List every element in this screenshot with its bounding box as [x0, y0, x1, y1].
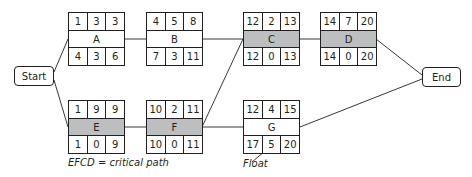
duration: 9 [88, 101, 107, 118]
node-f-bottom-row: 10 0 11 [147, 136, 202, 153]
activity-node-b: 4 5 8 B 7 3 11 [146, 12, 203, 66]
edge-g-end [300, 79, 422, 127]
start-label: Start [22, 71, 46, 82]
earliest-finish: 8 [184, 13, 202, 30]
latest-start: 10 [147, 136, 166, 153]
node-c-bottom-row: 12 0 13 [244, 48, 299, 65]
activity-node-a: 1 3 3 A 4 3 6 [68, 12, 125, 66]
earliest-start: 4 [147, 13, 166, 30]
earliest-start: 12 [244, 101, 263, 118]
activity-label: G [244, 118, 299, 136]
critical-path-caption: EFCD = critical path [68, 157, 169, 168]
earliest-start: 1 [69, 101, 88, 118]
start-node: Start [14, 66, 54, 86]
activity-label: A [69, 30, 124, 48]
earliest-start: 12 [244, 13, 263, 30]
node-d-top-row: 14 7 20 [321, 13, 376, 30]
latest-finish: 20 [281, 136, 299, 153]
node-d-bottom-row: 14 0 20 [321, 48, 376, 65]
latest-start: 17 [244, 136, 263, 153]
float: 0 [166, 136, 185, 153]
activity-node-f: 10 2 11 F 10 0 11 [146, 100, 203, 154]
node-g-top-row: 12 4 15 [244, 101, 299, 118]
edge-f-c [202, 39, 243, 127]
latest-finish: 6 [106, 48, 124, 65]
earliest-start: 10 [147, 101, 166, 118]
earliest-finish: 3 [106, 13, 124, 30]
end-node: End [422, 67, 461, 87]
node-b-bottom-row: 7 3 11 [147, 48, 202, 65]
node-c-top-row: 12 2 13 [244, 13, 299, 30]
node-g-bottom-row: 17 5 20 [244, 136, 299, 153]
activity-label: D [321, 30, 376, 48]
latest-start: 1 [69, 136, 88, 153]
earliest-finish: 9 [106, 101, 124, 118]
earliest-finish: 13 [281, 13, 299, 30]
activity-label: C [244, 30, 299, 48]
float: 0 [340, 48, 359, 65]
duration: 5 [166, 13, 185, 30]
activity-label: E [69, 118, 124, 136]
duration: 2 [263, 13, 282, 30]
duration: 7 [340, 13, 359, 30]
latest-start: 14 [321, 48, 340, 65]
activity-node-c: 12 2 13 C 12 0 13 [243, 12, 300, 66]
latest-finish: 11 [184, 48, 202, 65]
node-a-top-row: 1 3 3 [69, 13, 124, 30]
latest-finish: 9 [106, 136, 124, 153]
node-f-top-row: 10 2 11 [147, 101, 202, 118]
float: 5 [263, 136, 282, 153]
activity-node-e: 1 9 9 E 1 0 9 [68, 100, 125, 154]
latest-start: 12 [244, 48, 263, 65]
float: 0 [88, 136, 107, 153]
end-label: End [432, 72, 451, 83]
latest-finish: 11 [184, 136, 202, 153]
duration: 4 [263, 101, 282, 118]
node-e-top-row: 1 9 9 [69, 101, 124, 118]
duration: 3 [88, 13, 107, 30]
latest-finish: 13 [281, 48, 299, 65]
edge-start-e [54, 80, 68, 127]
float: 3 [166, 48, 185, 65]
latest-start: 4 [69, 48, 88, 65]
earliest-start: 1 [69, 13, 88, 30]
earliest-finish: 15 [281, 101, 299, 118]
activity-node-d: 14 7 20 D 14 0 20 [320, 12, 377, 66]
node-b-top-row: 4 5 8 [147, 13, 202, 30]
edge-d-end [376, 39, 422, 75]
latest-finish: 20 [358, 48, 376, 65]
node-e-bottom-row: 1 0 9 [69, 136, 124, 153]
float-label: Float [243, 158, 268, 169]
activity-label: B [147, 30, 202, 48]
latest-start: 7 [147, 48, 166, 65]
activity-node-g: 12 4 15 G 17 5 20 [243, 100, 300, 154]
earliest-finish: 20 [358, 13, 376, 30]
duration: 2 [166, 101, 185, 118]
earliest-start: 14 [321, 13, 340, 30]
earliest-finish: 11 [184, 101, 202, 118]
node-a-bottom-row: 4 3 6 [69, 48, 124, 65]
float: 0 [263, 48, 282, 65]
float: 3 [88, 48, 107, 65]
edge-start-a [54, 39, 68, 72]
activity-label: F [147, 118, 202, 136]
